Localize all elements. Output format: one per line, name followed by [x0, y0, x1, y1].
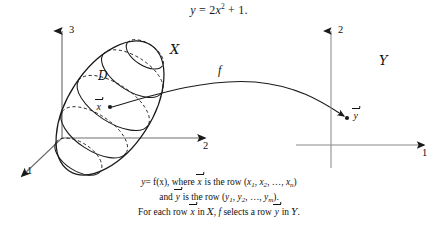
- caption-l2-ellipsis: , …,: [245, 192, 264, 202]
- caption-l3-vector-x: x: [190, 206, 195, 219]
- caption-l1-close: ): [294, 177, 297, 187]
- caption-l3-vector-y: y: [274, 206, 279, 219]
- codomain-axis-1-label: 1: [422, 147, 427, 158]
- caption-l3-set-x: X: [207, 206, 214, 217]
- domain-cross-section-5: [121, 34, 168, 75]
- codomain-axis-2-label: 2: [338, 24, 343, 35]
- caption-l2-close: ).: [273, 192, 278, 202]
- vector-y-glyph: y: [353, 110, 358, 121]
- caption-l1-vector-x: x: [197, 176, 202, 189]
- caption-l2-vector-y: y: [175, 191, 180, 204]
- caption-l3-text-a: For each row: [138, 207, 190, 217]
- domain-axis-2-label: 2: [203, 140, 208, 151]
- codomain-point-y-label: y: [353, 110, 358, 121]
- caption-line-1: y= f(x), where x is the row (x1, x2, …, …: [0, 176, 438, 191]
- vector-x-glyph: x: [96, 101, 101, 112]
- codomain-point-y: [345, 116, 349, 120]
- caption-line-2: and y is the row (y1, y2, …, ym).: [0, 191, 438, 206]
- caption-l1-ellipsis: , …,: [267, 177, 286, 187]
- codomain-set-label: Y: [379, 53, 388, 68]
- domain-axis-3-label: 3: [69, 24, 74, 35]
- domain-point-x-label: x: [96, 101, 101, 112]
- caption-l3-in-b: in: [279, 207, 291, 217]
- domain-axis-1-label: 1: [27, 165, 32, 176]
- caption-l3-text-b: selects a row: [221, 207, 274, 217]
- domain-point-x: [108, 105, 112, 109]
- caption-l2-text-a: is the row (: [180, 192, 225, 202]
- caption-l1-text-a: = f(x), where: [145, 177, 197, 187]
- caption-l2-and: and: [159, 192, 175, 202]
- mapping-label-f: f: [218, 63, 221, 78]
- caption-l3-in-a: in: [195, 207, 207, 217]
- figure-caption: y= f(x), where x is the row (x1, x2, …, …: [0, 176, 438, 219]
- caption-l1-text-b: is the row (: [202, 177, 247, 187]
- domain-subregion-label: D: [98, 69, 108, 83]
- domain-set-label: X: [170, 42, 179, 57]
- caption-l3-period: .: [298, 207, 300, 217]
- caption-line-3: For each row x in X, f selects a row y i…: [0, 206, 438, 219]
